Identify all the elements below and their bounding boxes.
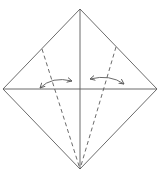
origami-diagram (0, 0, 161, 174)
